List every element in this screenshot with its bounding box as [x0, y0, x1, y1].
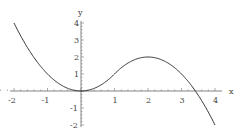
svg-text:1: 1	[74, 70, 79, 79]
plot-area: -2-112344321-1-2 x y	[0, 0, 241, 140]
svg-text:3: 3	[180, 96, 185, 105]
axes: -2-112344321-1-2	[1, 19, 222, 130]
function-curve	[14, 23, 215, 125]
svg-text:1: 1	[113, 96, 118, 105]
svg-text:-1: -1	[70, 104, 78, 113]
svg-text:2: 2	[74, 53, 79, 62]
svg-text:4: 4	[213, 96, 218, 105]
svg-text:-2: -2	[70, 121, 78, 130]
chart: -2-112344321-1-2 x y	[0, 0, 241, 140]
y-axis-label: y	[77, 8, 83, 17]
svg-text:-2: -2	[8, 96, 16, 105]
svg-text:2: 2	[146, 96, 151, 105]
svg-text:-1: -1	[42, 96, 50, 105]
x-axis-label: x	[229, 87, 234, 96]
svg-text:3: 3	[74, 36, 79, 45]
svg-text:4: 4	[74, 19, 79, 28]
